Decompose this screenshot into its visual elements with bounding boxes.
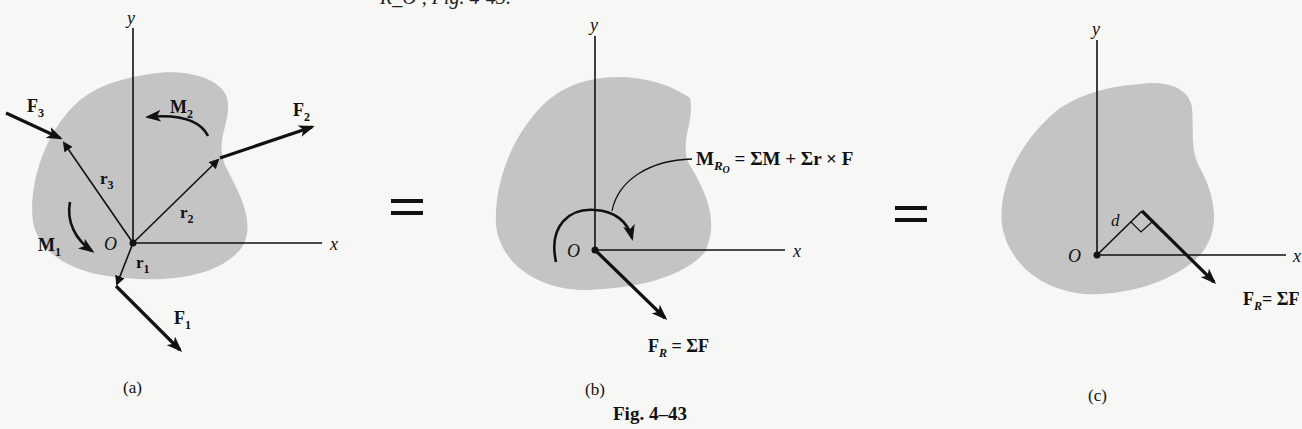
y-axis-label-b: y: [588, 15, 598, 35]
rigid-body-c: [1002, 83, 1214, 294]
equals-sign-1: [391, 199, 423, 215]
f1-label: F1: [174, 308, 191, 332]
f1-force-arrow: [116, 286, 180, 350]
f2-force-arrow: [220, 127, 312, 158]
x-axis-label-b: x: [792, 241, 801, 261]
equals-sign-2: [895, 206, 927, 222]
panel-label-b: (b): [585, 380, 605, 400]
origin-label-a: O: [104, 234, 117, 254]
resultant-force-label-b: FR = ΣF: [648, 336, 709, 360]
y-axis-label-c: y: [1090, 19, 1100, 39]
panel-b: y x O MRO = ΣM + Σr × F FR = ΣF: [496, 15, 853, 360]
panel-label-a: (a): [123, 378, 142, 398]
origin-label-c: O: [1068, 246, 1081, 266]
resultant-moment-label: MRO = ΣM + Σr × F: [696, 148, 853, 175]
distance-label: d: [1111, 211, 1120, 230]
figure-4-43: R_O , Fig. 4-43. y x O r3: [0, 0, 1302, 429]
x-axis-label-c: x: [1292, 246, 1301, 266]
f3-label: F3: [27, 96, 44, 120]
panel-c: y x O d FR= ΣF: [1002, 19, 1301, 313]
rigid-body-a: [32, 72, 247, 279]
panel-label-c: (c): [1088, 386, 1107, 406]
diagram-canvas: y x O r3 F3 r2 F2 r1 F1 M1: [0, 0, 1302, 429]
resultant-force-label-c: FR= ΣF: [1243, 289, 1300, 313]
x-axis-label-a: x: [329, 234, 338, 254]
y-axis-label-a: y: [125, 8, 135, 28]
origin-label-b: O: [567, 241, 580, 261]
f3-force-arrow: [6, 113, 60, 138]
figure-caption: Fig. 4–43: [613, 403, 687, 425]
clipped-top-text: R_O , Fig. 4-43.: [380, 0, 511, 9]
panel-a: y x O r3 F3 r2 F2 r1 F1 M1: [6, 8, 338, 350]
f2-label: F2: [293, 100, 310, 124]
